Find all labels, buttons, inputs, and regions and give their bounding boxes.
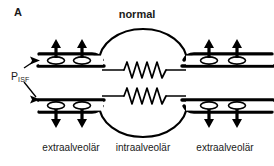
region-label-intraalveolar: intraalveolär [104, 142, 182, 153]
pressure-label-pisf: PISF [11, 70, 30, 83]
vessel-lumen-ellipse [229, 102, 246, 109]
pressure-label-base: P [11, 70, 18, 82]
vessel-lumen-ellipse [201, 102, 218, 109]
spring-zigzag-capillary-bottom [124, 88, 166, 104]
spring-zigzag-capillary-top [124, 62, 166, 78]
figure-panel-a: A normal PISF extraalveolär intraalveolä… [0, 0, 274, 166]
pisf-pointer-line-bottom [24, 82, 36, 97]
region-label-extraalveolar-left: extraalveolär [28, 142, 114, 153]
region-label-extraalveolar-right: extraalveolär [180, 142, 270, 153]
alveolus-circle-top [99, 29, 187, 62]
alveolus-circle-bottom [99, 104, 187, 137]
pressure-label-subscript: ISF [18, 76, 30, 83]
figure-title: normal [0, 8, 274, 20]
vessel-lumen-ellipse [74, 102, 91, 109]
vessel-lumen-ellipse [48, 102, 65, 109]
pisf-pointer-head-top [30, 57, 40, 65]
